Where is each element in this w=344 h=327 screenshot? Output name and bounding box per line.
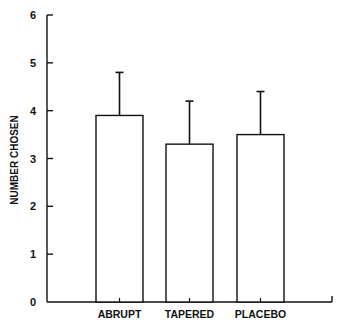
x-tick-label: TAPERED [165, 308, 215, 320]
x-tick-label: PLACEBO [235, 308, 286, 320]
bar-placebo [237, 92, 284, 302]
bar-rect [166, 144, 213, 302]
y-tick-label: 6 [30, 9, 36, 21]
y-tick-label: 1 [30, 248, 36, 260]
x-tick-label: ABRUPT [98, 308, 142, 320]
bar-rect [96, 115, 143, 302]
y-axis-label: NUMBER CHOSEN [9, 115, 20, 204]
y-tick-label: 5 [30, 57, 36, 69]
x-tick-labels: ABRUPTTAPEREDPLACEBO [98, 308, 287, 320]
y-tick-label: 4 [30, 105, 37, 117]
y-ticks: 0123456 [30, 9, 53, 308]
bars [96, 72, 284, 302]
bar-chart: 0123456 ABRUPTTAPEREDPLACEBO NUMBER CHOS… [0, 0, 344, 327]
y-tick-label: 3 [30, 153, 36, 165]
bar-abrupt [96, 72, 143, 302]
bar-rect [237, 135, 284, 302]
y-tick-label: 0 [30, 296, 36, 308]
bar-tapered [166, 101, 213, 302]
y-tick-label: 2 [30, 200, 36, 212]
